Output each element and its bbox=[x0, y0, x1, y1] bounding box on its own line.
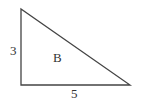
vertical-leg-label: 3 bbox=[10, 43, 17, 58]
horizontal-leg-label: 5 bbox=[71, 86, 78, 99]
right-triangle bbox=[21, 9, 130, 85]
shape-label: B bbox=[53, 50, 62, 65]
triangle-diagram: 3 B 5 bbox=[0, 0, 141, 99]
triangle-svg: 3 B 5 bbox=[0, 0, 141, 99]
